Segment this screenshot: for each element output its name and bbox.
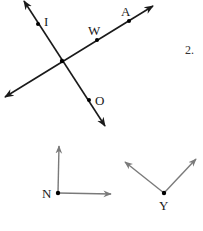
- point-a: [127, 19, 131, 23]
- point-i: [36, 22, 40, 26]
- ray-n-up: [58, 146, 59, 193]
- ray-y-left: [125, 162, 164, 193]
- line-wa: [5, 6, 153, 97]
- label-w: W: [88, 23, 101, 38]
- intersecting-lines-figure: I O W A: [5, 1, 153, 126]
- angle-n-figure: N: [42, 146, 111, 201]
- vertex-n: [56, 191, 60, 195]
- label-o: O: [95, 93, 104, 108]
- label-y: Y: [159, 198, 169, 213]
- label-a: A: [121, 4, 131, 19]
- point-o: [87, 98, 91, 102]
- problem-number: 2.: [185, 43, 194, 57]
- geometry-figure: I O W A 2. N Y: [0, 0, 203, 231]
- label-n: N: [42, 186, 52, 201]
- vertex-y: [162, 191, 166, 195]
- angle-y-figure: Y: [125, 159, 196, 213]
- intersection-point: [60, 59, 64, 63]
- ray-y-right: [164, 159, 196, 193]
- label-i: I: [44, 14, 48, 29]
- line-io: [24, 1, 105, 126]
- point-w: [95, 38, 99, 42]
- ray-n-right: [58, 193, 111, 194]
